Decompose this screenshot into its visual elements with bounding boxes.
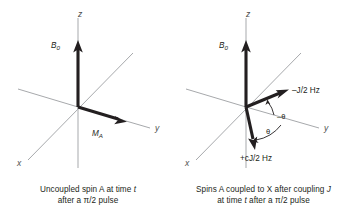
angle-arc-minus-theta <box>268 102 274 115</box>
caption-uncoupled-line1: Uncoupled spin A at time t <box>0 184 176 195</box>
caption-uncoupled: Uncoupled spin A at time t after a π/2 p… <box>0 184 176 206</box>
vector-b0: B0 <box>219 40 251 107</box>
caption-coupled: Spins A coupled to X after coupling J at… <box>176 184 351 206</box>
caption-uncoupled-line2: after a π/2 pulse <box>0 195 176 206</box>
axis-label-x: x <box>16 158 22 168</box>
vector-ma: MA <box>78 107 127 139</box>
vector-ma-shaft <box>78 107 118 119</box>
axis-label-z: z <box>77 9 83 19</box>
angle-label-minus-theta: –θ <box>277 112 285 121</box>
caption-coupled-line1-text: Spins A coupled to X after coupling <box>196 185 327 194</box>
vector-ma-arrowhead <box>114 116 127 124</box>
diagram-uncoupled: z y x B0 MA <box>0 0 176 184</box>
nmr-vector-figure: z y x B0 MA Uncoupled spin A at tim <box>0 0 351 218</box>
vector-ma-label: MA <box>92 129 103 139</box>
vector-b0: B0 <box>51 40 83 107</box>
caption-uncoupled-line1-text: Uncoupled spin A at time <box>40 185 134 194</box>
caption-coupled-line1-italic: J <box>327 185 331 194</box>
vector-minus-j-shaft <box>246 93 280 107</box>
panel-coupled-spin: z y x B0 –θ θ –J/2 Hz <box>176 0 351 218</box>
caption-coupled-line2: at time t after a π/2 pulse <box>176 195 351 206</box>
vector-minus-j-label: –J/2 Hz <box>292 86 320 95</box>
axis-y-back-line <box>18 89 78 107</box>
caption-coupled-line1: Spins A coupled to X after coupling J <box>176 184 351 195</box>
panel-uncoupled-spin: z y x B0 MA Uncoupled spin A at tim <box>0 0 176 218</box>
vector-b0-label: B0 <box>219 41 228 51</box>
vector-plus-cj-label: +cJ/2 Hz <box>240 154 272 163</box>
caption-uncoupled-line1-italic: t <box>134 185 136 194</box>
vector-minus-j: –J/2 Hz <box>246 86 320 107</box>
caption-coupled-line2-a: at time <box>217 196 244 205</box>
axis-label-y: y <box>154 123 160 133</box>
axis-label-z: z <box>245 9 251 19</box>
axis-y-back-line <box>186 89 246 107</box>
caption-coupled-line2-b: after a π/2 pulse <box>247 196 310 205</box>
angle-label-theta: θ <box>266 127 270 136</box>
axis-label-y: y <box>323 123 329 133</box>
vector-b0-label: B0 <box>51 41 60 51</box>
diagram-coupled: z y x B0 –θ θ –J/2 Hz <box>176 0 351 184</box>
axis-label-x: x <box>184 158 190 168</box>
vector-plus-cj-shaft <box>246 107 253 139</box>
